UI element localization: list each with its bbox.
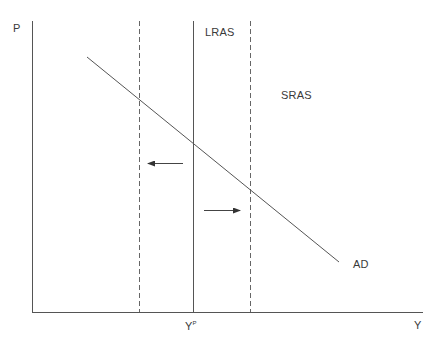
x-axis-label: Y <box>414 320 422 331</box>
sras-label: SRAS <box>281 90 312 101</box>
ad-as-diagram <box>0 0 447 345</box>
lras-label: LRAS <box>205 27 235 38</box>
ad-label: AD <box>353 259 369 270</box>
ad-line <box>87 57 339 262</box>
potential-output-label: YP <box>185 320 197 332</box>
potential-output-superscript: P <box>193 320 197 326</box>
y-axis-label: P <box>13 23 21 34</box>
potential-output-base: Y <box>185 320 193 332</box>
